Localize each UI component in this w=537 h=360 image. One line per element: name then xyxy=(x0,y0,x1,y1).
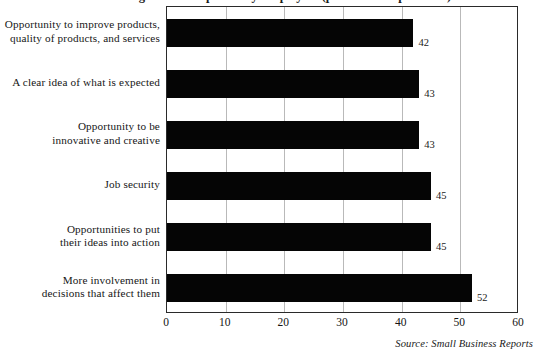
chart-title: Motivating Factors Reported by Employees… xyxy=(0,0,537,3)
plot-area: 424343454552 xyxy=(166,6,518,313)
category-label: Opportunity to beinnovative and creative xyxy=(0,120,160,147)
bar-value-label: 52 xyxy=(477,293,488,304)
category-label-column: Opportunity to improve products,quality … xyxy=(0,7,163,313)
x-tick-40: 40 xyxy=(395,316,407,328)
category-label-line: innovative and creative xyxy=(0,134,160,148)
gridline-30 xyxy=(343,7,344,312)
bar-chart-figure: Motivating Factors Reported by Employees… xyxy=(0,0,537,360)
category-label-line: quality of products, and services xyxy=(0,32,160,46)
gridline-40 xyxy=(402,7,403,312)
bar-value-label: 45 xyxy=(436,242,447,253)
category-label-line: decisions that affect them xyxy=(0,287,160,301)
category-label: Opportunity to improve products,quality … xyxy=(0,18,160,45)
bar xyxy=(167,121,419,149)
x-tick-10: 10 xyxy=(219,316,231,328)
category-label-line: Job security xyxy=(0,178,160,192)
x-tick-30: 30 xyxy=(336,316,348,328)
category-label: A clear idea of what is expected xyxy=(0,76,160,90)
bar xyxy=(167,70,419,98)
category-label-line: A clear idea of what is expected xyxy=(0,76,160,90)
category-label-line: their ideas into action xyxy=(0,236,160,250)
bar xyxy=(167,274,472,302)
x-tick-0: 0 xyxy=(163,316,169,328)
bar-value-label: 45 xyxy=(436,191,447,202)
x-tick-60: 60 xyxy=(512,316,524,328)
category-label: Job security xyxy=(0,178,160,192)
gridline-20 xyxy=(284,7,285,312)
bar xyxy=(167,172,431,200)
category-label-line: Opportunity to improve products, xyxy=(0,18,160,32)
source-note: Source: Small Business Reports xyxy=(395,338,533,349)
bar xyxy=(167,19,413,47)
category-label-line: Opportunities to put xyxy=(0,223,160,237)
x-tick-50: 50 xyxy=(454,316,466,328)
x-tick-20: 20 xyxy=(278,316,290,328)
chart-title-text: Motivating Factors Reported by Employees… xyxy=(0,0,537,3)
gridline-10 xyxy=(226,7,227,312)
bar xyxy=(167,223,431,251)
gridline-50 xyxy=(460,7,461,312)
category-label: More involvement indecisions that affect… xyxy=(0,274,160,301)
bar-value-label: 43 xyxy=(424,89,435,100)
x-axis-tick-labels: 0102030405060 xyxy=(166,316,518,332)
category-label-line: More involvement in xyxy=(0,274,160,288)
category-label: Opportunities to puttheir ideas into act… xyxy=(0,223,160,250)
category-label-line: Opportunity to be xyxy=(0,120,160,134)
bar-value-label: 42 xyxy=(418,38,429,49)
bar-value-label: 43 xyxy=(424,140,435,151)
